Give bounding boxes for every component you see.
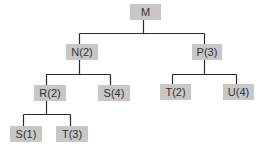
node-s4: S(4) <box>98 85 130 101</box>
edge-m-children <box>80 19 205 44</box>
edge-n2-children <box>47 60 111 85</box>
tree-diagram: M N(2) P(3) R(2) S(4) T(2) U(4) S(1) T(3… <box>0 0 265 149</box>
edge-p3-children <box>173 60 237 84</box>
node-r2: R(2) <box>34 85 66 101</box>
node-t3: T(3) <box>56 126 88 142</box>
node-n2: N(2) <box>66 44 98 60</box>
node-t2: T(2) <box>160 84 191 100</box>
edge-r2-children <box>24 101 71 126</box>
node-m: M <box>130 4 161 20</box>
node-s1: S(1) <box>10 126 42 142</box>
node-p3: P(3) <box>192 44 222 60</box>
node-u4: U(4) <box>223 84 254 100</box>
